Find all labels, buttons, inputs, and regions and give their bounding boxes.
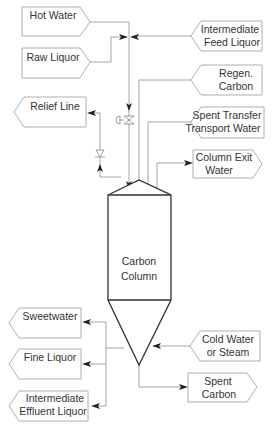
node-spent-transfer-transport-water[interactable]: Spent Transfer Transport Water	[185, 107, 264, 138]
svg-text:Fine Liquor: Fine Liquor	[24, 351, 77, 363]
svg-text:Intermediate: Intermediate	[26, 392, 85, 404]
node-intermediate-effluent-liquor[interactable]: Intermediate Effluent Liquor	[9, 391, 88, 421]
column-label-line1: Carbon	[122, 255, 157, 267]
pipe-regen-carbon	[139, 80, 191, 183]
svg-text:Carbon: Carbon	[202, 388, 237, 400]
svg-text:Regen.: Regen.	[219, 67, 253, 79]
control-valve-icon[interactable]	[116, 116, 134, 124]
node-regen-carbon[interactable]: Regen. Carbon	[191, 65, 262, 95]
pipe-column-exit-water	[157, 163, 190, 192]
node-intermediate-feed-liquor[interactable]: Intermediate Feed Liquor	[191, 21, 262, 51]
pipe-raw-liquor	[90, 37, 127, 62]
svg-text:Column Exit: Column Exit	[196, 151, 253, 163]
svg-text:Water: Water	[205, 164, 233, 176]
pipe-relief-line	[89, 113, 121, 177]
svg-text:Feed Liquor: Feed Liquor	[204, 36, 261, 48]
svg-text:Cold Water: Cold Water	[202, 333, 255, 345]
pipe-hot-water	[90, 22, 129, 186]
svg-text:Sweetwater: Sweetwater	[23, 310, 78, 322]
svg-text:Relief Line: Relief Line	[30, 100, 80, 112]
svg-text:or Steam: or Steam	[207, 346, 250, 358]
svg-text:Transport Water: Transport Water	[185, 122, 261, 134]
node-hot-water[interactable]: Hot Water	[22, 7, 90, 36]
svg-text:Hot Water: Hot Water	[30, 9, 77, 21]
node-fine-liquor[interactable]: Fine Liquor	[9, 349, 81, 379]
node-sweetwater[interactable]: Sweetwater	[9, 308, 81, 338]
svg-text:Intermediate: Intermediate	[201, 23, 260, 35]
pipe-spent-carbon	[139, 365, 186, 387]
column-label-line2: Column	[121, 270, 157, 282]
node-relief-line[interactable]: Relief Line	[14, 97, 86, 127]
node-spent-carbon[interactable]: Spent Carbon	[188, 373, 257, 402]
svg-text:Spent Transfer: Spent Transfer	[193, 109, 262, 121]
svg-text:Carbon: Carbon	[219, 80, 254, 92]
arrow-feed-liquor-icon	[130, 34, 139, 40]
node-column-exit-water[interactable]: Column Exit Water	[193, 150, 262, 178]
svg-text:Effluent Liquor: Effluent Liquor	[19, 405, 87, 417]
process-flow-diagram: Carbon Column Hot Water Raw Liquor Inter…	[0, 0, 272, 432]
svg-text:Spent: Spent	[204, 375, 232, 387]
relief-valve-icon[interactable]	[95, 150, 105, 157]
node-raw-liquor[interactable]: Raw Liquor	[22, 48, 90, 78]
node-cold-water-or-steam[interactable]: Cold Water or Steam	[190, 331, 260, 361]
carbon-column: Carbon Column	[108, 180, 171, 365]
svg-text:Raw Liquor: Raw Liquor	[26, 51, 80, 63]
